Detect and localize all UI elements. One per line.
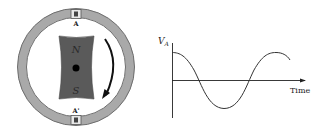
x-axis-arrowhead-icon xyxy=(300,79,306,83)
rotor-north-label: N xyxy=(71,44,82,55)
rotor-shaft xyxy=(73,65,80,72)
coil-a-prime-bottom xyxy=(71,116,81,125)
x-axis-label: Time xyxy=(290,86,310,95)
coil-a-prime-label: A' xyxy=(71,107,79,115)
coil-a-top xyxy=(71,10,81,19)
rotor-south-label: S xyxy=(73,85,80,96)
y-axis-label: VA xyxy=(158,36,170,47)
coil-a-label: A xyxy=(72,20,79,28)
generator-diagram: A A' N S VA Time xyxy=(0,0,326,135)
rotation-arrow-icon xyxy=(105,39,113,95)
